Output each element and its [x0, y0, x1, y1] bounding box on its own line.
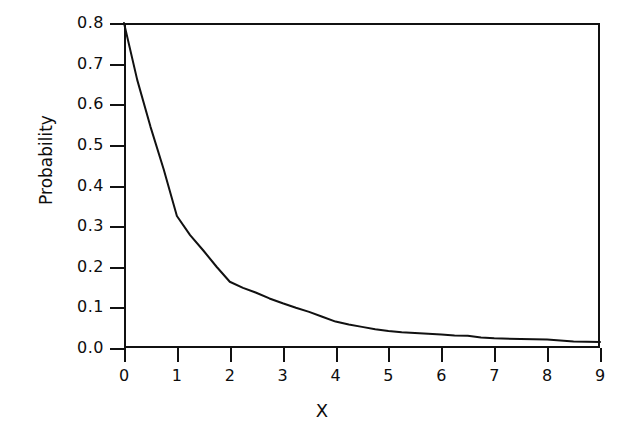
y-axis-tick [110, 104, 124, 106]
x-axis-title: X [0, 400, 644, 421]
x-axis-tick-label: 0 [112, 366, 136, 385]
y-axis-tick-label: 0.8 [48, 13, 104, 32]
y-axis-tick [110, 64, 124, 66]
y-axis-tick-label: 0.1 [48, 297, 104, 316]
y-axis-tick [110, 226, 124, 228]
x-axis-tick [600, 348, 602, 362]
x-axis-tick-label: 5 [376, 366, 400, 385]
y-axis-title: Probability [36, 90, 56, 230]
x-axis-tick-label: 6 [429, 366, 453, 385]
y-axis-tick-label: 0.3 [48, 216, 104, 235]
x-axis-tick [388, 348, 390, 362]
x-axis-tick-label: 9 [588, 366, 612, 385]
x-axis-tick [283, 348, 285, 362]
x-axis-tick [336, 348, 338, 362]
x-axis-tick-label: 8 [535, 366, 559, 385]
y-axis-tick-label: 0.5 [48, 135, 104, 154]
x-axis-tick [230, 348, 232, 362]
y-axis-tick-label: 0.0 [48, 338, 104, 357]
y-axis-tick [110, 23, 124, 25]
x-axis-tick-label: 2 [218, 366, 242, 385]
x-axis-tick [124, 348, 126, 362]
y-axis-tick [110, 267, 124, 269]
x-axis-tick-label: 1 [165, 366, 189, 385]
y-axis-tick [110, 145, 124, 147]
y-axis-tick [110, 186, 124, 188]
x-axis-tick [547, 348, 549, 362]
probability-curve [124, 23, 600, 348]
y-axis-tick [110, 348, 124, 350]
y-axis-tick-label: 0.6 [48, 94, 104, 113]
chart-figure: 0.00.10.20.30.40.50.60.70.8 0123456789 P… [0, 0, 644, 441]
y-axis-tick-label: 0.2 [48, 257, 104, 276]
y-axis-tick-label: 0.7 [48, 54, 104, 73]
x-axis-tick [494, 348, 496, 362]
x-axis-tick [177, 348, 179, 362]
y-axis-tick-label: 0.4 [48, 176, 104, 195]
x-axis-tick-label: 7 [482, 366, 506, 385]
y-axis-tick [110, 307, 124, 309]
x-axis-tick [441, 348, 443, 362]
x-axis-tick-label: 3 [271, 366, 295, 385]
x-axis-tick-label: 4 [324, 366, 348, 385]
